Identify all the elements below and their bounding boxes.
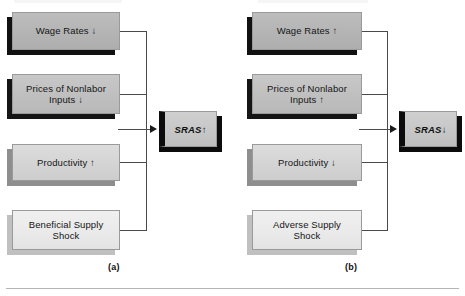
connector-stub-2 (120, 94, 146, 95)
result-label: SRAS (174, 124, 201, 135)
input-box-wage-rates: Wage Rates ↑ (252, 12, 362, 50)
result-box-sras: SRAS↑ (159, 111, 217, 147)
panel-caption-b: (b) (345, 262, 357, 272)
input-box-productivity: Productivity ↓ (252, 144, 362, 181)
input-box-prices-of-nonlabor-inputs: Prices of Nonlabor Inputs ↓ (12, 74, 120, 114)
connector-stub-1 (362, 31, 387, 32)
connector-stub-3 (362, 162, 387, 163)
result-label: SRAS (414, 124, 441, 135)
input-box-productivity: Productivity ↑ (12, 144, 120, 181)
result-direction-arrow: ↓ (442, 124, 447, 135)
connector-manifold (146, 31, 147, 231)
panel-b: Wage Rates ↑ Prices of Nonlabor Inputs ↑… (233, 0, 465, 296)
input-box-adverse-supply-shock: Adverse Supply Shock (252, 210, 362, 250)
input-box-beneficial-supply-shock: Beneficial Supply Shock (12, 210, 120, 250)
connector-manifold (387, 31, 388, 231)
bottom-divider-rule (6, 288, 459, 289)
arrowhead-to-result (390, 125, 397, 133)
input-box-wage-rates: Wage Rates ↓ (12, 12, 120, 50)
panel-caption-a: (a) (108, 262, 120, 272)
connector-feed-to-result (118, 129, 152, 130)
connector-stub-4 (120, 230, 146, 231)
sras-determinants-figure: Wage Rates ↓ Prices of Nonlabor Inputs ↓… (0, 0, 465, 296)
arrowhead-to-result (150, 125, 157, 133)
connector-feed-to-result (359, 129, 392, 130)
panel-a: Wage Rates ↓ Prices of Nonlabor Inputs ↓… (0, 0, 232, 296)
connector-stub-3 (120, 162, 146, 163)
connector-stub-1 (120, 31, 146, 32)
result-box-sras: SRAS↓ (399, 111, 457, 147)
connector-stub-2 (362, 94, 387, 95)
connector-stub-4 (362, 230, 387, 231)
input-box-prices-of-nonlabor-inputs: Prices of Nonlabor Inputs ↑ (252, 74, 362, 114)
result-direction-arrow: ↑ (202, 124, 207, 135)
